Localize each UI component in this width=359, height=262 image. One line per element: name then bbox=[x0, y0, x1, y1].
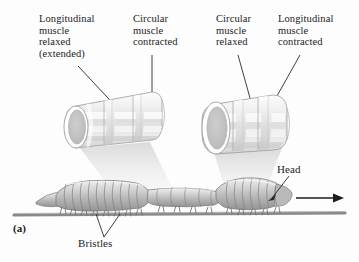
ground-line bbox=[14, 212, 345, 216]
figure-panel: Longitudinal muscle relaxed (extended) C… bbox=[0, 0, 359, 262]
segment-elongated-narrow bbox=[64, 92, 166, 148]
segment-shortened-wide bbox=[202, 94, 292, 155]
movement-direction-arrow bbox=[296, 194, 344, 203]
leader-bristles bbox=[96, 214, 120, 237]
diagram-artwork bbox=[0, 0, 359, 262]
